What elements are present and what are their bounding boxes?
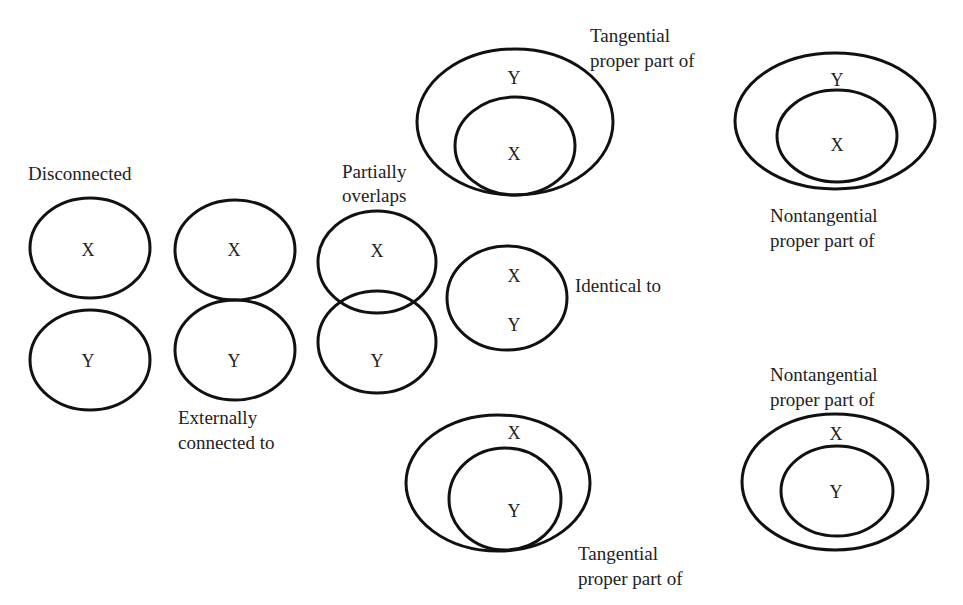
- label-ntpp-top-line1: Nontangential: [770, 204, 878, 227]
- partially-overlaps-y-text: Y: [371, 351, 384, 371]
- label-tpp-bottom-line1: Tangential: [578, 542, 658, 565]
- label-externally-connected-line2: connected to: [178, 431, 275, 454]
- tpp-top-y-text: Y: [508, 68, 521, 88]
- tpp-bottom-outer-region-x: [406, 415, 590, 551]
- externally-connected-region-y: [175, 300, 295, 400]
- tpp-bottom-inner-region-y: [449, 448, 561, 550]
- label-ntpp-top-line2: proper part of: [770, 229, 874, 252]
- identical-y-text: Y: [508, 315, 521, 335]
- ntpp-top-y-text: Y: [831, 70, 844, 90]
- partially-overlaps-region-y: [318, 291, 436, 393]
- externally-connected-y-text: Y: [228, 351, 241, 371]
- label-identical-to: Identical to: [575, 274, 661, 297]
- ntpp-top-x-text: X: [831, 135, 844, 155]
- label-externally-connected-line1: Externally: [178, 406, 257, 429]
- tpp-bottom-x-text: X: [508, 423, 521, 443]
- ntpp-bottom-y-text: Y: [830, 482, 843, 502]
- label-partially-overlaps-line2: overlaps: [342, 184, 406, 207]
- label-ntpp-bottom-line2: proper part of: [770, 388, 874, 411]
- ntpp-bottom-x-text: X: [830, 424, 843, 444]
- disconnected-x-text: X: [82, 240, 95, 260]
- partially-overlaps-x-text: X: [371, 241, 384, 261]
- rcc8-diagram: [0, 0, 963, 605]
- label-tpp-top-line2: proper part of: [590, 49, 694, 72]
- label-tpp-top-line1: Tangential: [590, 24, 670, 47]
- tpp-top-x-text: X: [508, 144, 521, 164]
- label-partially-overlaps-line1: Partially: [342, 160, 406, 183]
- identical-x-text: X: [508, 266, 521, 286]
- label-ntpp-bottom-line1: Nontangential: [770, 363, 878, 386]
- label-tpp-bottom-line2: proper part of: [578, 567, 682, 590]
- label-disconnected: Disconnected: [28, 162, 131, 185]
- externally-connected-x-text: X: [228, 240, 241, 260]
- tpp-bottom-y-text: Y: [508, 501, 521, 521]
- partially-overlaps-region-x: [318, 211, 436, 313]
- disconnected-y-text: Y: [82, 351, 95, 371]
